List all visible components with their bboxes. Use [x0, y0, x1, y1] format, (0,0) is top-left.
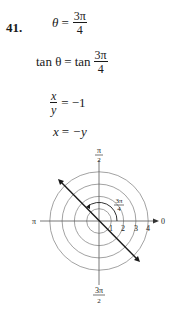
axis-arrow-icon: [153, 219, 159, 224]
tick-label-3: 3: [134, 224, 138, 233]
tick-label-1: 1: [109, 224, 113, 233]
label-3pi-over-4-num: 3π: [115, 197, 123, 205]
tick-label-4: 4: [146, 224, 150, 233]
label-zero: 0: [161, 217, 165, 226]
label-3pi-over-4-den: 4: [117, 205, 121, 213]
label-pi-over-2-den: 2: [97, 156, 101, 164]
label-pi: π: [32, 217, 36, 226]
label-pi-over-2-num: π: [97, 146, 101, 155]
label-3pi-over-2-num: 3π: [95, 286, 103, 295]
label-3pi-over-2-den: 2: [97, 297, 101, 305]
tick-label-2: 2: [121, 224, 125, 233]
polar-graph: π 2 π 0 3π 4 1 2 3 4 3π 2: [0, 0, 172, 311]
